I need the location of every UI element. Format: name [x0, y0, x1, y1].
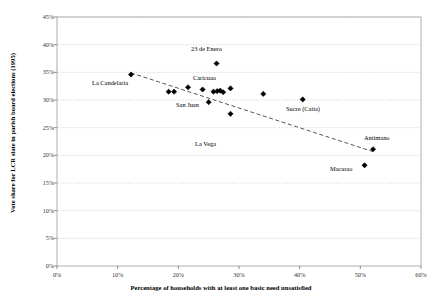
data-point-label: Sucre (Catia): [286, 105, 320, 112]
data-point-label: 23 de Enero: [191, 45, 222, 52]
scatter-chart-figure: Vote share for LCR slate in parish board…: [0, 0, 442, 300]
y-axis-tick-label: 25%: [26, 124, 54, 131]
x-axis-tick-label: 0%: [42, 271, 72, 278]
y-axis-tick-label: 5%: [26, 234, 54, 241]
y-axis-tick-label: 10%: [26, 207, 54, 214]
data-point-label: Antimano: [364, 134, 390, 141]
y-axis-tick-label: 45%: [26, 13, 54, 20]
x-axis-title: Percentage of households with at least o…: [0, 284, 442, 291]
x-axis-tick-label: 50%: [345, 271, 375, 278]
y-axis-tick-label: 40%: [26, 41, 54, 48]
y-axis-ticks: [54, 17, 57, 266]
data-point-label: La Vega: [195, 140, 216, 147]
data-point-label: La Candelaria: [92, 79, 128, 86]
x-axis-tick-label: 60%: [406, 271, 436, 278]
y-axis-tick-label: 0%: [26, 262, 54, 269]
data-point-label: Caricuao: [193, 74, 216, 81]
y-axis-tick-label: 35%: [26, 68, 54, 75]
x-axis-tick-label: 20%: [163, 271, 193, 278]
y-axis-tick-label: 20%: [26, 151, 54, 158]
x-axis-tick-label: 40%: [285, 271, 315, 278]
x-axis-tick-label: 10%: [103, 271, 133, 278]
data-point-label: Macarao: [330, 165, 352, 172]
y-axis-tick-label: 15%: [26, 179, 54, 186]
x-axis-tick-label: 30%: [224, 271, 254, 278]
x-axis-ticks: [57, 266, 421, 269]
data-point-label: San Juan: [176, 101, 199, 108]
plot-area-border: [57, 17, 421, 266]
y-axis-tick-label: 30%: [26, 96, 54, 103]
y-axis-title: Vote share for LCR slate in parish board…: [9, 8, 18, 258]
